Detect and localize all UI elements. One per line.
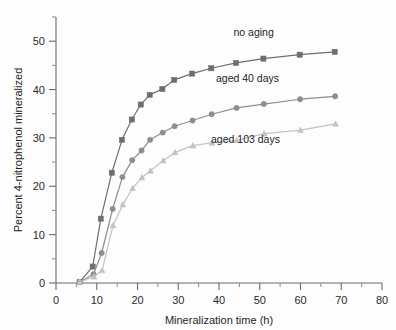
chart-figure: 0102030405001020304050607080 no agingage… — [0, 0, 396, 330]
data-marker-square — [98, 216, 103, 221]
data-marker-circle — [99, 250, 104, 255]
data-marker-square — [138, 102, 143, 107]
data-marker-circle — [130, 157, 135, 162]
x-tick-label: 30 — [172, 294, 184, 306]
y-tick-label: 40 — [33, 84, 45, 96]
data-marker-square — [332, 49, 337, 54]
data-marker-square — [190, 71, 195, 76]
data-marker-square — [297, 52, 302, 57]
data-marker-circle — [120, 174, 125, 179]
series-label-1: aged 40 days — [216, 72, 279, 84]
y-tick-label: 50 — [33, 35, 45, 47]
series-label-2: aged 103 days — [211, 133, 280, 145]
data-marker-square — [209, 66, 214, 71]
data-marker-circle — [160, 130, 165, 135]
data-marker-circle — [209, 112, 214, 117]
data-marker-circle — [297, 97, 302, 102]
data-marker-square — [90, 264, 95, 269]
data-marker-square — [172, 77, 177, 82]
x-tick-label: 0 — [53, 294, 59, 306]
y-tick-label: 0 — [39, 277, 45, 289]
data-marker-square — [160, 86, 165, 91]
x-tick-label: 40 — [213, 294, 225, 306]
y-tick-label: 10 — [33, 229, 45, 241]
data-marker-circle — [261, 101, 266, 106]
x-axis-title: Mineralization time (h) — [165, 314, 273, 326]
y-tick-label: 30 — [33, 132, 45, 144]
data-marker-square — [234, 60, 239, 65]
data-marker-circle — [110, 206, 115, 211]
data-marker-circle — [172, 124, 177, 129]
x-tick-label: 80 — [376, 294, 388, 306]
x-tick-label: 10 — [91, 294, 103, 306]
y-axis-title: Percent 4-nitrophenol mineralized — [12, 68, 24, 232]
data-marker-square — [129, 117, 134, 122]
data-marker-circle — [139, 148, 144, 153]
y-tick-label: 20 — [33, 180, 45, 192]
data-marker-circle — [234, 105, 239, 110]
series-label-0: no aging — [233, 26, 273, 38]
data-marker-square — [147, 92, 152, 97]
data-marker-square — [261, 56, 266, 61]
data-marker-square — [119, 137, 124, 142]
x-tick-label: 60 — [294, 294, 306, 306]
x-tick-label: 70 — [335, 294, 347, 306]
x-tick-label: 20 — [131, 294, 143, 306]
data-marker-circle — [190, 118, 195, 123]
x-tick-label: 50 — [254, 294, 266, 306]
data-marker-circle — [332, 94, 337, 99]
data-marker-circle — [147, 137, 152, 142]
mineralization-line-chart: 0102030405001020304050607080 no agingage… — [0, 0, 396, 330]
data-marker-square — [109, 170, 114, 175]
